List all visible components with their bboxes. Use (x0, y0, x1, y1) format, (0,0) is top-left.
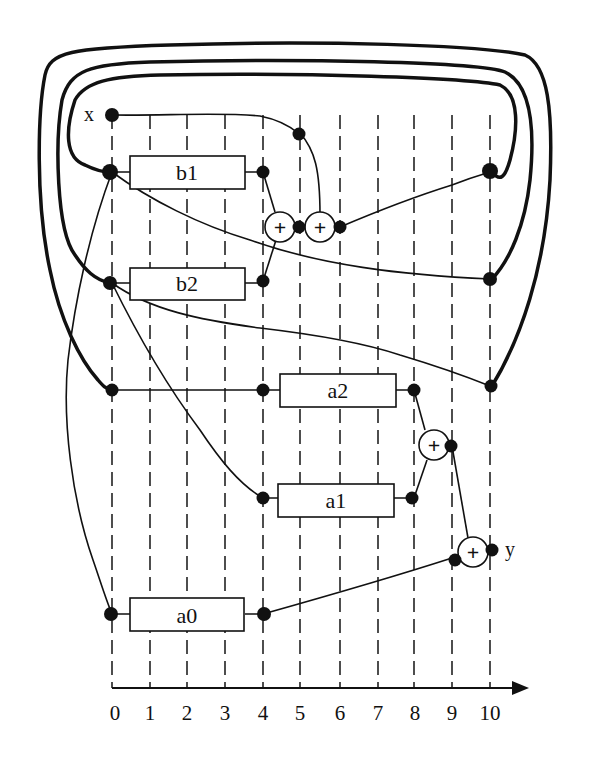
block-label-a1: a1 (326, 488, 347, 513)
tick-label-5: 5 (295, 701, 306, 725)
tick-label-0: 0 (110, 701, 121, 725)
node-adder2-out (334, 221, 347, 234)
block-b2: b2 (130, 268, 245, 300)
block-label-a0: a0 (177, 603, 198, 628)
tick-label-9: 9 (447, 701, 458, 725)
node-adder3-out (445, 440, 458, 453)
adder-label: + (467, 540, 480, 565)
time-axis (112, 681, 529, 695)
tick-label-6: 6 (335, 701, 346, 725)
node-a0-in (104, 607, 118, 621)
node-a1-out (406, 492, 419, 505)
node-a2-in-0 (106, 384, 119, 397)
wire-x-to-adder2 (112, 114, 298, 133)
adder-label: + (274, 215, 287, 240)
adder-1: + (265, 212, 295, 242)
tick-label-4: 4 (258, 701, 269, 725)
adder-2: + (305, 212, 335, 242)
node-b2-in (103, 276, 117, 290)
node-loop-inner-10 (482, 163, 498, 179)
block-label-a2: a2 (328, 378, 349, 403)
adder-label: + (314, 215, 327, 240)
node-loop-middle-10 (483, 272, 497, 286)
feedback-loops (39, 43, 551, 390)
adder-label: + (428, 433, 441, 458)
block-a2: a2 (280, 374, 396, 407)
block-label-b1: b1 (176, 160, 198, 185)
node-branch-5 (293, 128, 306, 141)
node-b1-out (257, 166, 270, 179)
block-a1: a1 (278, 484, 394, 517)
tick-label-2: 2 (182, 701, 193, 725)
block-b1: b1 (130, 156, 245, 189)
node-a1-in (257, 492, 270, 505)
node-adder1-out (293, 221, 306, 234)
axis-tick-labels: 0 1 2 3 4 5 6 7 8 9 10 (110, 701, 501, 725)
adder-4: + (458, 537, 488, 567)
block-label-b2: b2 (176, 271, 198, 296)
node-a2-out (408, 384, 421, 397)
feedback-loop-outer (39, 43, 551, 390)
block-a0: a0 (130, 598, 244, 631)
signal-flow-diagram: 0 1 2 3 4 5 6 7 8 9 10 (0, 0, 589, 757)
tick-label-10: 10 (480, 701, 501, 725)
output-label-y: y (505, 538, 515, 561)
node-a0-out (257, 607, 271, 621)
input-label-x: x (84, 103, 94, 125)
node-x (105, 108, 119, 122)
tick-label-8: 8 (410, 701, 421, 725)
node-loop-outer-10 (485, 380, 498, 393)
node-b2-out (257, 275, 270, 288)
node-a2-in (257, 384, 270, 397)
tick-label-1: 1 (145, 701, 156, 725)
adder-3: + (419, 430, 449, 460)
tick-label-3: 3 (220, 701, 231, 725)
node-b1-in (102, 164, 118, 180)
node-y (486, 544, 499, 557)
tick-label-7: 7 (373, 701, 384, 725)
node-adder4-in (449, 554, 462, 567)
